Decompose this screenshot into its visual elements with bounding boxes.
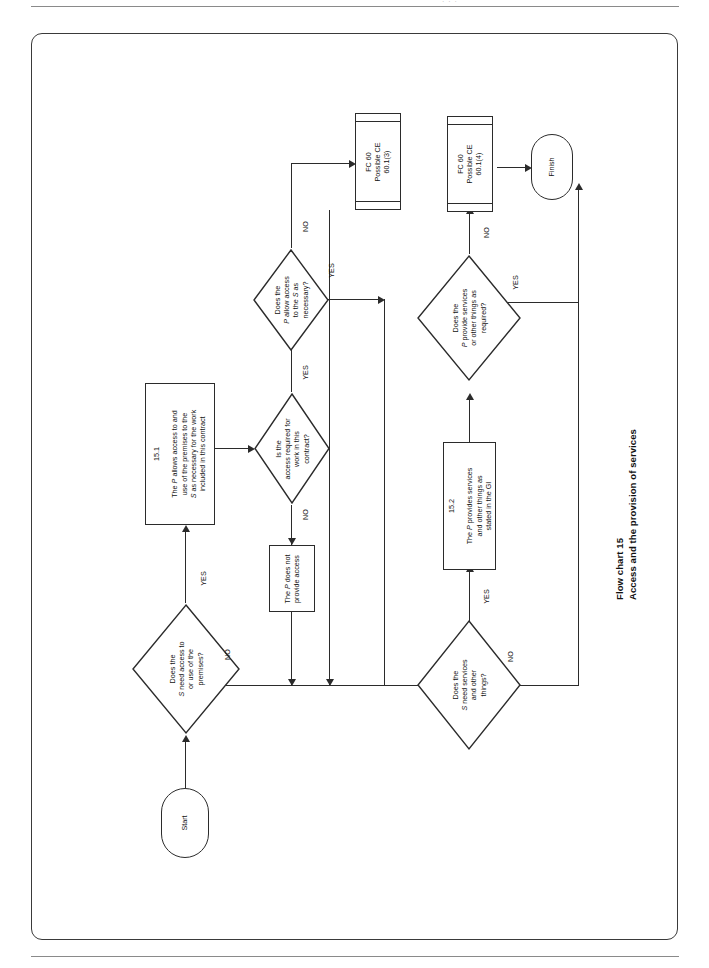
edge-d3-no-vertical bbox=[291, 163, 292, 248]
branch-label-d2-no: NO bbox=[300, 510, 311, 519]
node-process-15-2-label: 15.2 The P provides services and other t… bbox=[446, 468, 492, 545]
node-process-15-2[interactable]: 15.2 The P provides services and other t… bbox=[443, 442, 496, 570]
branch-label-d3-no: NO bbox=[300, 222, 311, 231]
node-predefined-fc60-60-1-3[interactable]: FC 60 Possible CE 60.1(3) bbox=[355, 113, 401, 210]
node-process-15-1[interactable]: 15.1 The P allows access to and use of t… bbox=[145, 383, 215, 525]
edge-d1-yes-to-p151 bbox=[185, 530, 186, 603]
flowchart-canvas: Start Does the S need access to or use o… bbox=[0, 0, 709, 968]
node-start[interactable]: Start bbox=[161, 788, 209, 858]
branch-label-d1-yes: YES bbox=[196, 574, 210, 583]
node-decision-s-needs-access[interactable]: Does the S need access to or use of the … bbox=[131, 603, 241, 735]
node-decision-d3-label: Does the P allow access to the S as nece… bbox=[273, 276, 310, 324]
branch-label-d3-yes: YES bbox=[324, 266, 338, 275]
node-process-no-access-label: The P does not provide access bbox=[283, 554, 301, 603]
node-fc60b-label: FC 60 Possible CE 60.1(4) bbox=[456, 144, 484, 183]
node-decision-p-provides-services[interactable]: Does the P provide services or other thi… bbox=[416, 254, 522, 382]
edge-noaccess-down bbox=[291, 612, 292, 686]
branch-label-d5-no: NO bbox=[481, 228, 492, 237]
branch-label-d4-no: NO bbox=[505, 652, 516, 661]
arrowhead-fc60a-down bbox=[326, 679, 334, 686]
node-decision-d2-label: Is the access required for work in this … bbox=[274, 418, 311, 479]
arrowhead-start-to-d1 bbox=[182, 735, 190, 742]
arrowhead-d2-to-noaccess bbox=[288, 538, 296, 545]
node-finish-label: Finish bbox=[547, 157, 556, 176]
edge-d4-no-vertical bbox=[578, 188, 579, 686]
branch-label-d2-yes: YES bbox=[298, 368, 312, 377]
arrowhead-d4-no-to-finish bbox=[575, 183, 583, 190]
edge-d3-yes-vertical bbox=[384, 299, 385, 686]
edge-d5-no-to-fc60b bbox=[469, 212, 470, 254]
edge-p152-to-d5 bbox=[469, 398, 470, 442]
node-process-15-1-label: 15.1 The P allows access to and use of t… bbox=[152, 410, 207, 499]
node-decision-s-needs-services[interactable]: Does the S need services and other thing… bbox=[416, 619, 522, 751]
edge-start-to-d1 bbox=[185, 740, 186, 788]
node-decision-d1-label: Does the S need access to or use of the … bbox=[168, 641, 205, 696]
arrowhead-p152-to-d5 bbox=[466, 393, 474, 400]
node-decision-d4-label: Does the S need services and other thing… bbox=[451, 659, 488, 710]
node-process-no-access[interactable]: The P does not provide access bbox=[269, 545, 315, 612]
arrowhead-d1-to-p151 bbox=[182, 525, 190, 532]
branch-label-d1-no: NO bbox=[222, 650, 233, 659]
node-decision-access-required[interactable]: Is the access required for work in this … bbox=[253, 392, 331, 505]
node-predefined-fc60-60-1-4[interactable]: FC 60 Possible CE 60.1(4) bbox=[447, 116, 493, 212]
branch-label-d5-yes: YES bbox=[508, 278, 522, 287]
node-decision-p-allows-access[interactable]: Does the P allow access to the S as nece… bbox=[252, 248, 330, 352]
arrowhead-noaccess-down bbox=[288, 679, 296, 686]
edge-d3-no-horizontal bbox=[291, 163, 351, 164]
node-finish[interactable]: Finish bbox=[531, 134, 573, 200]
branch-label-d4-yes: YES bbox=[479, 592, 493, 601]
node-decision-d5-label: Does the P provide services or other thi… bbox=[451, 289, 488, 348]
node-start-label: Start bbox=[180, 815, 189, 830]
edge-fc60b-to-finish bbox=[497, 167, 528, 168]
node-fc60a-label: FC 60 Possible CE 60.1(3) bbox=[364, 142, 392, 181]
